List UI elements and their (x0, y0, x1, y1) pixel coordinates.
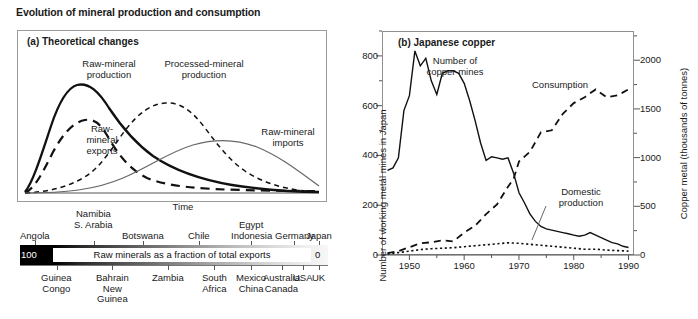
panel-b-title: (b) Japanese copper (398, 37, 495, 48)
scale-country-label: Guinea Congo (41, 273, 72, 294)
x-tick-label: 1990 (609, 260, 649, 271)
scale-country-label: Egypt (239, 219, 263, 230)
panel-a-title: (a) Theoretical changes (27, 36, 139, 47)
scale-right-value: 0 (315, 249, 320, 260)
panel-b-x-tick-labels: 19501960197019801990 (382, 258, 634, 274)
panel-a-plot (17, 30, 327, 202)
scale-country-label: Chile (188, 230, 210, 241)
scale-country-label: UK (312, 273, 325, 284)
y-right-tick-label: 1500 (640, 103, 661, 114)
scale-country-label: Zambia (152, 273, 184, 284)
label-raw-mineral-exports: Raw- mineral exports (76, 123, 128, 156)
scale-caption: Raw minerals as a fraction of total expo… (53, 249, 311, 260)
export-fraction-gradient-bar: 100 0 Raw minerals as a fraction of tota… (20, 245, 328, 266)
scale-top-country-labels: AngolaNamibiaS. ArabiaBotswanaChileEgypt… (17, 208, 329, 241)
panel-b-right-tick-labels: 0500100015002000 (640, 40, 672, 266)
panel-b-left-tick-labels: 0200400600800 (352, 40, 378, 266)
scale-country-label: S. Arabia (74, 219, 113, 230)
series-consumption (388, 89, 629, 253)
scale-left-value: 100 (21, 249, 37, 260)
scale-country-label: Botswana (122, 230, 164, 241)
y-right-tick-label: 500 (640, 200, 656, 211)
scale-country-label: Namibia (76, 208, 111, 219)
label-domestic-production: Domestic production (543, 186, 619, 208)
label-processed-mineral-production: Processed-mineral production (152, 58, 256, 80)
figure-title: Evolution of mineral production and cons… (16, 6, 260, 18)
domestic-production-leader-line (532, 206, 546, 240)
y-left-tick-label: 0 (352, 249, 378, 260)
label-consumption: Consumption (520, 79, 600, 90)
x-tick-label: 1950 (389, 260, 429, 271)
scale-country-label: Bahrain New Guinea (96, 273, 129, 305)
panel-b-left-axis: Number of working metal mines in Japan (337, 50, 351, 240)
scale-country-label: USA (293, 273, 313, 284)
panel-b-right-axis-title: Copper metal (thousands of tonnes) (678, 54, 689, 234)
panel-b-right-axis: Copper metal (thousands of tonnes) (676, 50, 690, 240)
series-domestic-production (388, 243, 629, 254)
scale-country-label: Mexico China (236, 273, 266, 294)
scale-caption-plate: Raw minerals as a fraction of total expo… (53, 248, 311, 262)
y-left-tick-label: 400 (352, 149, 378, 160)
label-number-of-copper-mines: Number of copper mines (412, 55, 498, 77)
scale-country-label: South Africa (202, 273, 227, 294)
y-left-tick-label: 200 (352, 199, 378, 210)
label-raw-mineral-production: Raw-mineral production (66, 58, 152, 80)
x-tick-label: 1970 (499, 260, 539, 271)
y-left-tick-label: 800 (352, 50, 378, 61)
y-left-tick-label: 600 (352, 100, 378, 111)
x-tick-label: 1960 (444, 260, 484, 271)
y-right-tick-label: 2000 (640, 54, 661, 65)
scale-country-label: Angola (20, 230, 50, 241)
label-raw-mineral-imports: Raw-mineral imports (250, 126, 326, 148)
y-right-tick-label: 0 (640, 249, 645, 260)
x-tick-label: 1980 (554, 260, 594, 271)
scale-country-label: Indonesia (231, 230, 272, 241)
figure-root: Evolution of mineral production and cons… (0, 0, 698, 319)
y-right-tick-label: 1000 (640, 152, 661, 163)
scale-country-label: Japan (306, 230, 332, 241)
scale-bottom-country-labels: Guinea CongoBahrain New GuineaZambiaSout… (17, 269, 329, 315)
